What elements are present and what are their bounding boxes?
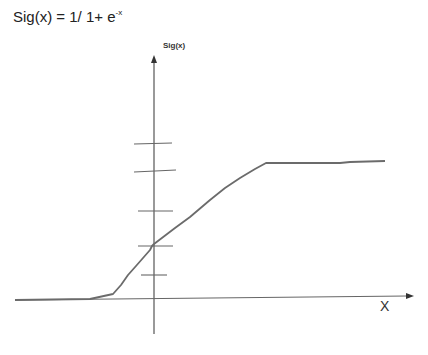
y-axis-ticks [134, 143, 176, 275]
y-axis [151, 55, 157, 334]
y-axis-arrow-icon [151, 55, 157, 63]
sigmoid-plot [0, 0, 428, 355]
sigmoid-curve [15, 161, 385, 300]
x-axis-arrow-icon [406, 293, 414, 299]
